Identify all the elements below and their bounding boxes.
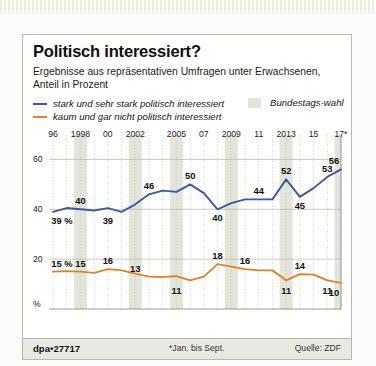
x-tick-label: 2009 (222, 129, 241, 139)
legend-item-orange: kaum und gar nicht politisch interessier… (33, 110, 222, 123)
page-surface: Politisch interessiert? Ergebnisse aus r… (0, 14, 376, 366)
infographic-card: Politisch interessiert? Ergebnisse aus r… (22, 34, 352, 360)
legend-line-icon-blue (33, 103, 47, 105)
data-value-label: 18 (212, 250, 222, 261)
data-value-label: 44 (253, 185, 263, 196)
x-tick-label: 2005 (167, 129, 186, 139)
data-value-label: 10 (329, 287, 339, 298)
data-value-label: 11 (171, 285, 181, 296)
legend-label-orange: kaum und gar nicht politisch interessier… (53, 111, 222, 122)
data-value-label: 40 (75, 195, 85, 206)
x-tick-label: 00 (103, 129, 113, 139)
data-value-label: 45 (295, 200, 305, 211)
data-value-label: 56 (329, 155, 339, 166)
legend-label-band: Bundestags-wahl (270, 96, 348, 109)
y-tick-label: 20 (33, 254, 43, 264)
data-value-label: 39 (103, 215, 113, 226)
data-value-label: 39 % (51, 215, 72, 226)
chart-legend: stark und sehr stark politisch interessi… (33, 97, 345, 125)
data-value-label: 16 (103, 255, 113, 266)
data-value-label: 15 (75, 258, 85, 269)
x-tick-label: 1998 (71, 129, 90, 139)
data-value-label: 11 (281, 285, 291, 296)
footer-note: *Jan. bis Sept. (169, 343, 224, 353)
data-value-label: 13 (130, 263, 140, 274)
chart-plot-area: 204060%96199800200220050720091120131517*… (33, 129, 345, 325)
data-value-label: 15 % (51, 258, 72, 269)
legend-item-blue: stark und sehr stark politisch interessi… (33, 97, 224, 110)
x-tick-label: 11 (254, 129, 263, 139)
data-value-label: 40 (212, 212, 222, 223)
legend-line-icon-orange (33, 116, 47, 118)
y-axis-unit-label: % (33, 299, 41, 309)
footer-source: Quelle: ZDF (295, 343, 341, 353)
data-value-label: 52 (281, 165, 291, 176)
page-title: Politisch interessiert? (33, 42, 201, 61)
legend-item-band: Bundestags-wahl (248, 97, 348, 125)
x-tick-label: 17* (335, 129, 348, 139)
x-tick-label: 2013 (277, 129, 296, 139)
data-value-label: 46 (144, 180, 154, 191)
data-value-label: 50 (185, 170, 195, 181)
footer-source-id: dpa•27717 (33, 343, 80, 354)
page-subtitle: Ergebnisse aus repräsentativen Umfragen … (33, 65, 345, 92)
decorative-top-strip (0, 0, 376, 15)
x-tick-label: 07 (199, 129, 209, 139)
chart-footer: dpa•27717 *Jan. bis Sept. Quelle: ZDF (23, 338, 351, 359)
y-tick-label: 60 (33, 154, 43, 164)
x-tick-label: 96 (48, 129, 58, 139)
y-tick-label: 40 (33, 204, 43, 214)
x-tick-label: 2002 (126, 129, 145, 139)
chart-svg (33, 129, 345, 325)
data-value-label: 14 (295, 260, 305, 271)
legend-label-blue: stark und sehr stark politisch interessi… (53, 98, 224, 109)
data-value-label: 16 (240, 255, 250, 266)
x-tick-label: 15 (309, 129, 319, 139)
legend-band-swatch-icon (248, 98, 261, 108)
